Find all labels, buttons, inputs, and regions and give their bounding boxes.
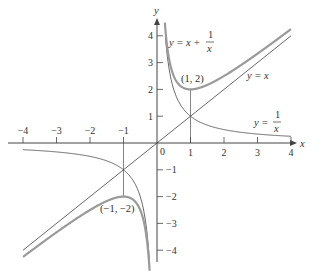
x-tick-label: 2 — [222, 147, 227, 158]
y-axis-arrow-icon — [154, 18, 160, 25]
x-tick-label: 4 — [289, 147, 294, 158]
svg-text:x: x — [206, 43, 212, 54]
label-curve-f: y = x + 1 x — [168, 29, 214, 54]
x-tick-label: −2 — [85, 125, 96, 136]
y-tick-label: −3 — [166, 218, 177, 229]
y-tick-label: −1 — [166, 164, 177, 175]
x-tick-label: 1 — [188, 147, 193, 158]
y-tick-label: −2 — [166, 191, 177, 202]
x-tick-label: −4 — [18, 125, 29, 136]
svg-text:1: 1 — [275, 109, 280, 120]
plot-canvas: −4−3−2−1012344321−1−2−3−4 x y y = x + 1 … — [0, 0, 321, 274]
x-tick-label: −3 — [51, 125, 62, 136]
axes-layer — [8, 18, 297, 262]
x-tick-label: 3 — [255, 147, 260, 158]
y-tick-label: 2 — [148, 84, 153, 95]
svg-text:y =: y = — [253, 117, 268, 128]
y-tick-label: −4 — [166, 245, 177, 256]
svg-text:y = x +: y = x + — [168, 37, 200, 48]
label-point-min: (1, 2) — [181, 73, 204, 85]
graph-figure: −4−3−2−1012344321−1−2−3−4 x y y = x + 1 … — [0, 0, 321, 274]
y-tick-label: 3 — [148, 57, 153, 68]
svg-text:x: x — [273, 123, 279, 134]
y-tick-label: 1 — [148, 111, 153, 122]
label-line-yx: y = x — [246, 70, 269, 81]
y-tick-label: 4 — [148, 30, 153, 41]
y-axis-label: y — [153, 5, 159, 16]
x-tick-label: 0 — [160, 146, 165, 157]
x-tick-label: −1 — [118, 125, 129, 136]
label-point-max: (−1, −2) — [100, 203, 135, 215]
svg-text:1: 1 — [208, 29, 213, 40]
label-curve-recip: y = 1 x — [253, 109, 281, 134]
x-axis-label: x — [299, 138, 305, 149]
